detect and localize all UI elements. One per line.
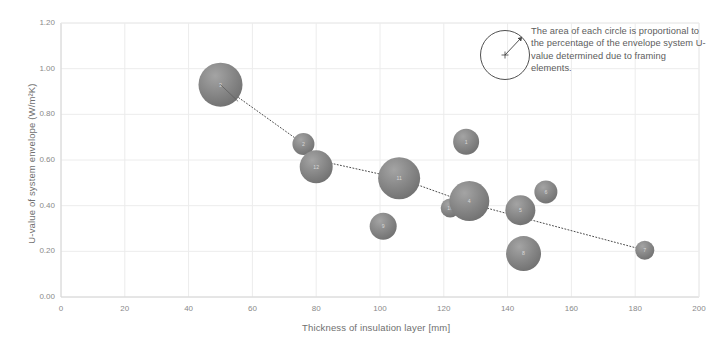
x-tick-9: 180 bbox=[618, 304, 652, 313]
legend-circle-icon bbox=[481, 31, 530, 80]
x-tick-10: 200 bbox=[682, 304, 716, 313]
bubble-11: 11 bbox=[378, 157, 420, 199]
bubble-chart: 321291110145867 The area of each circle … bbox=[0, 0, 716, 347]
bubble-6: 6 bbox=[534, 180, 557, 203]
x-tick-5: 100 bbox=[363, 304, 397, 313]
y-tick-5: 1.00 bbox=[21, 64, 55, 73]
x-tick-4: 80 bbox=[299, 304, 333, 313]
bubble-4: 4 bbox=[449, 181, 489, 221]
x-axis-title: Thickness of insulation layer [mm] bbox=[302, 322, 450, 333]
trend-line bbox=[221, 85, 645, 251]
bubble-9: 9 bbox=[370, 213, 397, 240]
x-tick-6: 120 bbox=[427, 304, 461, 313]
y-tick-3: 0.60 bbox=[21, 155, 55, 164]
x-tick-0: 0 bbox=[44, 304, 78, 313]
bubble-8: 8 bbox=[506, 236, 541, 271]
bubble-1: 1 bbox=[453, 129, 479, 155]
bubble-3: 3 bbox=[199, 63, 243, 107]
y-tick-2: 0.40 bbox=[21, 201, 55, 210]
y-tick-0: 0.00 bbox=[21, 292, 55, 301]
x-tick-1: 20 bbox=[108, 304, 142, 313]
bubble-series: 321291110145867 bbox=[199, 63, 655, 271]
y-tick-4: 0.80 bbox=[21, 109, 55, 118]
legend-note-text: The area of each circle is proportional … bbox=[531, 25, 706, 75]
y-tick-1: 0.20 bbox=[21, 246, 55, 255]
x-tick-2: 40 bbox=[172, 304, 206, 313]
bubble-7: 7 bbox=[635, 241, 654, 260]
y-tick-6: 1.20 bbox=[21, 18, 55, 27]
x-tick-8: 160 bbox=[554, 304, 588, 313]
bubble-12: 12 bbox=[300, 150, 333, 183]
bubble-5: 5 bbox=[505, 195, 535, 225]
x-tick-7: 140 bbox=[491, 304, 525, 313]
x-tick-3: 60 bbox=[235, 304, 269, 313]
